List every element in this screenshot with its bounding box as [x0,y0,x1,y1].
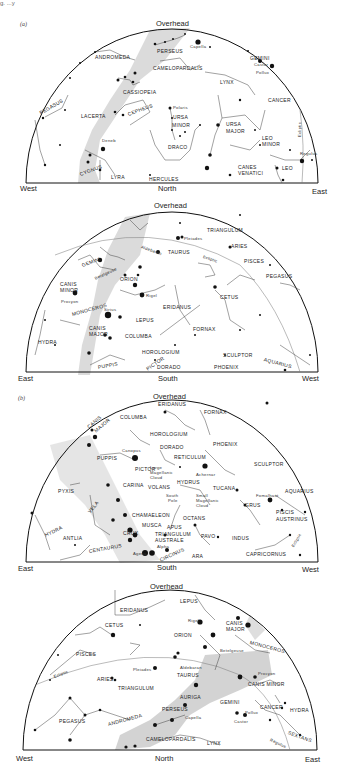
constellation-label: PHOENIX [214,365,239,370]
constellation-label: CAMELOPARDALIS [153,66,203,71]
chart-b-north: Overhead [0,575,343,776]
constellation-label: PHOENIX [213,442,238,447]
constellation-label: INDUS [232,536,249,541]
constellation-label: GRUS [245,503,261,508]
constellation-label: DORADO [157,365,181,370]
direction-north: North [155,755,173,763]
constellation-label: VENATICI [238,171,263,176]
constellation-label: MAJOR [89,332,108,337]
constellation-label: PERSEUS [157,49,183,54]
star-label: Agena [133,552,147,556]
constellation-label: SCULPTOR [223,353,253,358]
constellation-label: ARIES [231,244,248,249]
constellation-label: FORNAX [204,410,227,415]
constellation-label: LYRA [111,175,125,180]
constellation-label: PISCES [76,652,96,657]
constellation-label: GEMINI [220,700,240,705]
star-label: Betelgeuse [220,649,244,653]
constellation-label: CETUS [220,295,238,300]
constellation-label: COLUMBA [125,334,152,339]
constellation-label: AQUARIUS [285,489,314,494]
constellation-label: ARIES [97,677,114,682]
direction-west: West [302,566,319,574]
constellation-label: PISCIS [276,510,294,515]
constellation-label: PERSEUS [162,707,188,712]
constellation-label: ORION [174,633,192,638]
direction-south: South [157,564,177,572]
constellation-label: ORION [120,277,138,282]
direction-north: North [158,185,176,193]
constellation-label: PUPPIS [97,456,117,461]
constellation-label: LYNX [220,80,234,85]
constellation-label: HYDRUS [177,480,200,485]
constellation-label: HERCULES [149,177,179,182]
constellation-label: APUS [167,525,182,530]
constellation-label: CRUX [123,531,138,536]
constellation-label: URSA [173,115,188,120]
star-label: Sirius [104,308,116,312]
chart-a-south: Overhead [0,195,343,390]
star-label: Alpha [157,545,169,549]
constellation-label: CETUS [105,623,123,628]
star-label: Polaris [173,106,188,110]
constellation-label: AUSTRINUS [276,517,308,522]
direction-east: East [305,756,320,764]
direction-west: West [16,755,33,763]
constellation-label: MAJOR [226,129,245,134]
constellation-label: PEGASUS [266,274,292,279]
star-label: Achernar [196,473,215,477]
star-label: Capella [185,716,201,720]
constellation-label: LYNX [207,741,221,746]
object-label: Cloud [150,476,162,480]
constellation-label: DRACO [168,145,188,150]
object-label: Cloud [196,504,208,508]
star-label: Aldebaran [180,666,202,670]
constellation-label: AURIGA [180,695,201,700]
constellation-label: CANCER [260,705,283,710]
direction-south: South [158,375,178,383]
constellation-label: ERIDANUS [120,608,148,613]
constellation-label: FORNAX [193,327,216,332]
constellation-label: URSA [226,122,241,127]
star-label: Castor [254,63,268,67]
direction-west: West [302,375,319,383]
constellation-label: ERIDANUS [158,402,186,407]
constellation-label: CANIS MINOR [248,682,285,687]
constellation-label: PISCES [244,259,264,264]
constellation-label: MINOR [262,142,280,147]
constellation-label: ARA [192,554,203,559]
constellation-label: TUCANA [213,486,235,491]
constellation-label: TAURUS [177,673,199,678]
constellation-label: LEO [282,166,293,171]
star-label: Pleiades [133,668,151,672]
star-label: Fomalhaut [256,494,278,498]
constellation-label: LACERTA [81,114,106,119]
star-label: Pleiades [184,237,202,241]
constellation-label: OCTANS [183,516,205,521]
constellation-label: DORADO [160,445,184,450]
constellation-label: MUSCA [142,523,162,528]
constellation-label: MINOR [172,123,190,128]
constellation-label: CARINA [123,483,144,488]
chart-a-north: (a) Overhead [0,0,343,195]
star-label: Canopus [122,449,141,453]
star-label: Rigel [188,619,199,623]
star-label: Capella [190,45,206,49]
direction-east: East [18,375,33,383]
constellation-label: HOROLOGIUM [150,432,188,437]
constellation-label: SCULPTOR [254,462,284,467]
star-label: Procyon [61,300,78,304]
star-map-b-north [0,575,343,776]
constellation-label: ERIDANUS [163,305,191,310]
constellation-label: COLUMBA [120,415,147,420]
constellation-label: LEPUS [180,599,198,604]
constellation-label: CANCER [268,98,291,103]
star-label: Procyon [258,672,275,676]
star-label: Pollux [245,711,258,715]
constellation-label: ANDROMEDA [95,55,130,60]
constellation-label: GEMINI [250,56,270,61]
constellation-label: CAMELOPARDALIS [146,737,196,742]
object-label: Pole [168,499,178,503]
constellation-label: CHAMAELEON [132,513,170,518]
constellation-label: CASSIOPEIA [123,90,156,95]
